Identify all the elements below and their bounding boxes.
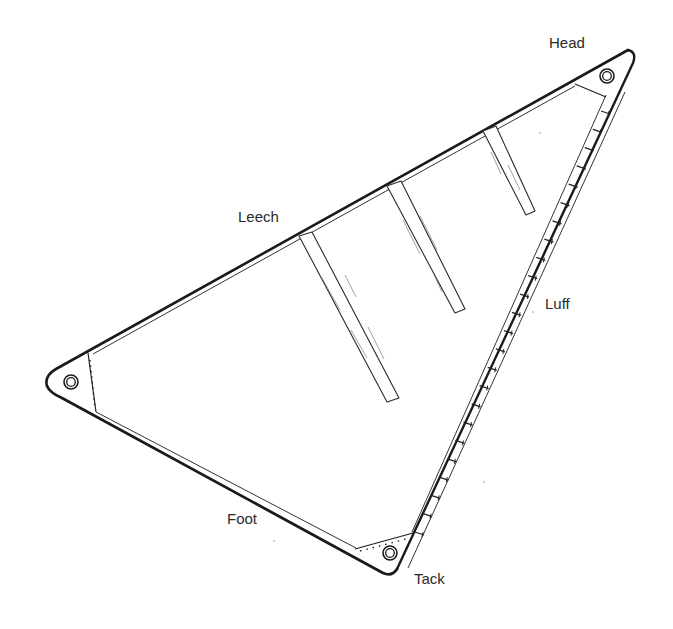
leech-tabling — [93, 86, 575, 354]
label-head: Head — [549, 35, 585, 50]
tack-grommet-icon — [383, 546, 397, 560]
sail-drawing — [0, 0, 673, 629]
grommets — [64, 69, 614, 560]
luff-edge — [397, 50, 634, 569]
label-luff: Luff — [545, 296, 570, 311]
head-patch-line — [575, 84, 606, 97]
sail-diagram: Head Leech Luff Foot Tack — [0, 0, 673, 629]
label-leech: Leech — [238, 209, 279, 224]
foot-tabling — [96, 412, 356, 548]
batten-2 — [387, 181, 465, 313]
tack-patch-line — [355, 533, 413, 549]
batten-1 — [299, 232, 399, 402]
head-grommet-icon — [600, 69, 614, 83]
forestay — [408, 92, 625, 568]
batten-3 — [483, 126, 535, 215]
clew-grommet-icon — [64, 375, 78, 389]
label-tack: Tack — [414, 571, 445, 586]
label-foot: Foot — [227, 511, 257, 526]
